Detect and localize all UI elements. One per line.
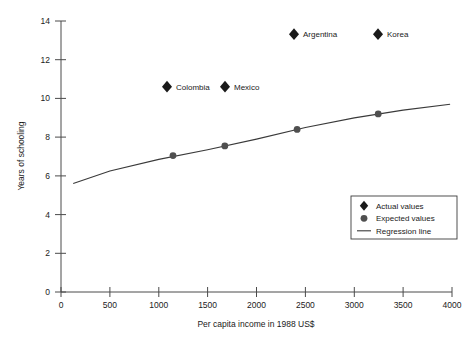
legend-label-regression: Regression line xyxy=(376,227,432,236)
x-tick-label-4000: 4000 xyxy=(443,300,462,310)
y-tick-label-4: 4 xyxy=(45,210,50,220)
chart-container: 0 2 4 6 8 10 12 14 0 500 1000 1500 2000 … xyxy=(0,0,471,338)
expected-point-1 xyxy=(170,152,177,159)
chart-legend: Actual values Expected values Regression… xyxy=(351,196,457,239)
x-tick-label-500: 500 xyxy=(103,300,117,310)
x-tick-label-0: 0 xyxy=(59,300,64,310)
y-tick-label-0: 0 xyxy=(45,287,50,297)
actual-values-series: Colombia Mexico Argentina Korea xyxy=(162,28,409,92)
y-tick-label-6: 6 xyxy=(45,171,50,181)
expected-point-3 xyxy=(294,126,301,133)
y-axis-ticks: 0 2 4 6 8 10 12 14 xyxy=(41,16,66,297)
expected-point-4 xyxy=(375,111,382,118)
actual-point-colombia xyxy=(162,81,172,93)
x-tick-label-3000: 3000 xyxy=(345,300,364,310)
regression-line xyxy=(73,104,450,183)
point-label-korea: Korea xyxy=(387,30,409,39)
actual-point-mexico xyxy=(220,81,230,93)
actual-point-argentina xyxy=(289,28,299,40)
y-tick-label-10: 10 xyxy=(41,93,51,103)
y-tick-label-2: 2 xyxy=(45,248,50,258)
point-label-argentina: Argentina xyxy=(303,30,338,39)
x-tick-label-1000: 1000 xyxy=(149,300,168,310)
expected-point-2 xyxy=(221,143,228,150)
y-tick-label-12: 12 xyxy=(41,55,51,65)
x-axis-ticks: 0 500 1000 1500 2000 2500 3000 3500 4000 xyxy=(59,287,462,310)
y-tick-label-8: 8 xyxy=(45,132,50,142)
x-tick-label-1500: 1500 xyxy=(198,300,217,310)
x-tick-label-2500: 2500 xyxy=(296,300,315,310)
legend-label-actual: Actual values xyxy=(376,202,424,211)
legend-circle-icon xyxy=(361,215,368,222)
point-label-mexico: Mexico xyxy=(234,83,260,92)
y-axis-title: Years of schooling xyxy=(16,121,26,190)
y-tick-label-14: 14 xyxy=(41,16,51,26)
actual-point-korea xyxy=(373,28,383,40)
x-axis-title: Per capita income in 1988 US$ xyxy=(197,319,314,329)
legend-label-expected: Expected values xyxy=(376,214,435,223)
x-tick-label-2000: 2000 xyxy=(247,300,266,310)
point-label-colombia: Colombia xyxy=(176,83,210,92)
scatter-chart: 0 2 4 6 8 10 12 14 0 500 1000 1500 2000 … xyxy=(0,0,471,338)
x-tick-label-3500: 3500 xyxy=(394,300,413,310)
